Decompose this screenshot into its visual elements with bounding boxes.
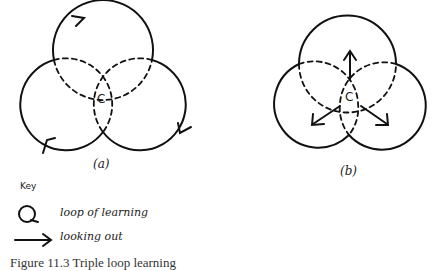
center-label-b: C — [345, 90, 353, 104]
key-item-loop-label: loop of learning — [60, 206, 148, 219]
center-label-a: C — [97, 92, 105, 106]
arrow-right-icon — [15, 234, 51, 246]
diagram-b-label: (b) — [340, 164, 357, 178]
arrow-icon — [43, 138, 55, 153]
figure-caption: Figure 11.3 Triple loop learning — [10, 255, 176, 271]
key-item-arrow-label: looking out — [60, 230, 123, 243]
arrow-icon — [72, 16, 84, 26]
key-title: Key — [20, 181, 36, 191]
diagram-a — [20, 0, 191, 153]
diagram-b — [274, 15, 426, 149]
diagram-a-label: (a) — [93, 157, 110, 171]
arrow-icon — [178, 123, 191, 133]
loop-icon — [19, 206, 38, 222]
